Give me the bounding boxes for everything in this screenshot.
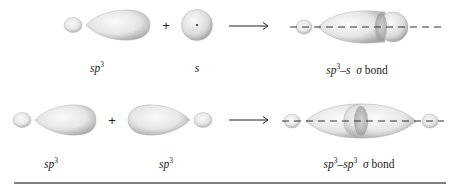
sp3-orbital-row1: [64, 10, 150, 40]
label-text: sp: [323, 158, 333, 170]
sp3-s-bond-shape: [290, 11, 446, 43]
label-text: s: [195, 62, 199, 74]
label-sp3-s-bond: sp3–s σ bond: [326, 64, 388, 76]
label-text: sp: [44, 158, 54, 170]
label-text: sp: [343, 158, 353, 170]
sp3-sp3-bond-shape: [282, 104, 444, 138]
arrow-icon: [229, 117, 268, 124]
label-superscript: 3: [353, 156, 357, 165]
label-superscript: 3: [169, 156, 173, 165]
label-superscript: 3: [54, 156, 58, 165]
label-sp3-sp3-bond: sp3–sp3 σ bond: [323, 158, 394, 170]
sigma-symbol: σ: [363, 158, 369, 170]
plus-operator-row2: +: [108, 113, 116, 128]
bond-word: bond: [372, 158, 395, 170]
sigma-symbol: σ: [356, 64, 362, 76]
bond-word: bond: [365, 64, 388, 76]
label-text: sp: [326, 64, 336, 76]
sp3-orbital-row2-right: [128, 105, 212, 135]
plus-operator-row1: +: [162, 18, 170, 33]
label-superscript: 3: [100, 60, 104, 69]
label-sp3-row2-right: sp3: [159, 158, 173, 170]
label-text: sp: [90, 62, 100, 74]
sp3-orbital-row2-left: [13, 105, 96, 135]
label-sp3-row1: sp3: [90, 62, 104, 74]
s-orbital: [182, 10, 213, 41]
label-s-row1: s: [195, 62, 199, 74]
label-text: s: [346, 64, 350, 76]
label-text: sp: [159, 158, 169, 170]
label-sp3-row2-left: sp3: [44, 158, 58, 170]
arrow-icon: [229, 23, 268, 30]
